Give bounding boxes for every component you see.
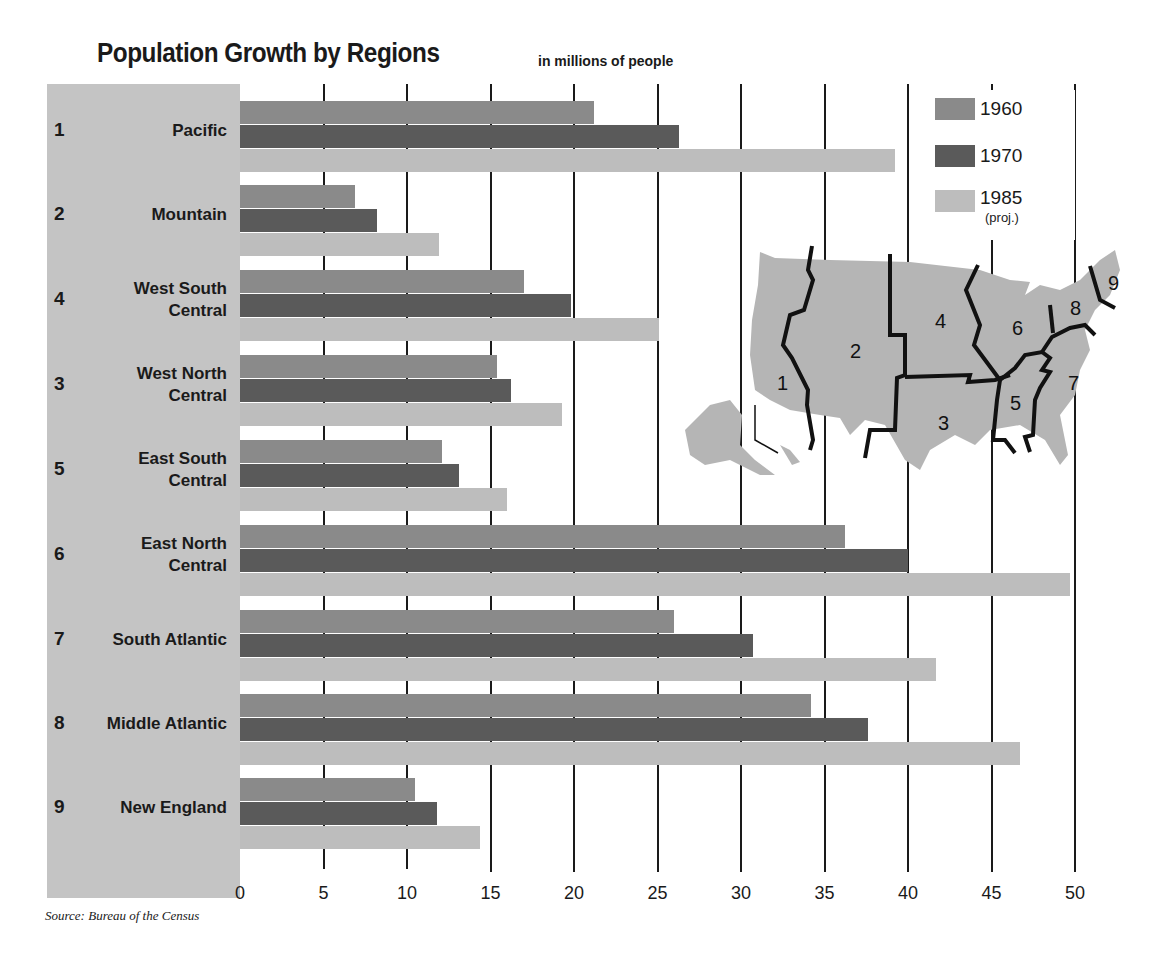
x-tick-label: 40 — [898, 883, 918, 904]
row-label: New England — [120, 797, 227, 819]
bar-1960 — [240, 778, 415, 801]
bar-1985 — [240, 233, 439, 256]
x-tick-label: 15 — [480, 883, 500, 904]
bar-1970 — [240, 294, 571, 317]
bar-1960 — [240, 440, 442, 463]
legend-note-proj: (proj.) — [985, 210, 1019, 225]
svg-text:2: 2 — [850, 340, 861, 362]
svg-text:5: 5 — [1010, 392, 1021, 414]
alaska-hawaii-divider — [755, 405, 778, 453]
chart-title: Population Growth by Regions — [97, 38, 439, 69]
x-tick-label: 0 — [235, 883, 245, 904]
row-number: 9 — [54, 796, 65, 818]
bar-1970 — [240, 549, 908, 572]
legend-swatch-1960 — [935, 98, 975, 120]
bar-1970 — [240, 718, 868, 741]
row-number: 7 — [54, 628, 65, 650]
legend-swatch-1970 — [935, 145, 975, 167]
legend-label-1960: 1960 — [980, 98, 1022, 120]
chart-subtitle: in millions of people — [538, 53, 673, 69]
svg-text:4: 4 — [935, 310, 946, 332]
x-tick-label: 25 — [647, 883, 667, 904]
row-label: West South Central — [134, 278, 227, 322]
x-tick-label: 10 — [397, 883, 417, 904]
row-label: Middle Atlantic — [107, 713, 227, 735]
bar-1960 — [240, 610, 674, 633]
legend-label-1985: 1985 — [980, 187, 1022, 209]
svg-text:8: 8 — [1070, 297, 1081, 319]
row-label: Mountain — [151, 204, 227, 226]
bar-1970 — [240, 379, 511, 402]
bar-1970 — [240, 209, 377, 232]
bar-1985 — [240, 742, 1020, 765]
us-map-shape — [685, 250, 1120, 475]
svg-text:1: 1 — [777, 372, 788, 394]
row-label: South Atlantic — [112, 629, 227, 651]
row-number: 5 — [54, 458, 65, 480]
bar-1970 — [240, 464, 459, 487]
legend: 1960 1970 1985 (proj.) — [915, 90, 1075, 240]
bar-1985 — [240, 826, 480, 849]
row-label: Pacific — [172, 120, 227, 142]
x-tick-label: 5 — [318, 883, 328, 904]
bar-1960 — [240, 525, 845, 548]
svg-text:6: 6 — [1012, 317, 1023, 339]
x-tick-label: 45 — [981, 883, 1001, 904]
bar-1985 — [240, 658, 936, 681]
svg-text:9: 9 — [1108, 272, 1119, 294]
row-label: West North Central — [137, 363, 227, 407]
bar-1985 — [240, 403, 562, 426]
bar-1970 — [240, 802, 437, 825]
x-tick-label: 35 — [814, 883, 834, 904]
bar-1960 — [240, 694, 811, 717]
svg-text:7: 7 — [1068, 372, 1079, 394]
bar-1960 — [240, 355, 497, 378]
bar-1960 — [240, 101, 594, 124]
bar-1985 — [240, 318, 659, 341]
row-number: 8 — [54, 712, 65, 734]
bar-1970 — [240, 125, 679, 148]
bar-1985 — [240, 149, 895, 172]
source-note: Source: Bureau of the Census — [45, 908, 199, 924]
legend-swatch-1985 — [935, 190, 975, 212]
bar-1985 — [240, 573, 1070, 596]
x-tick-label: 20 — [564, 883, 584, 904]
bar-1960 — [240, 270, 524, 293]
legend-label-1970: 1970 — [980, 145, 1022, 167]
row-number: 6 — [54, 543, 65, 565]
bar-1970 — [240, 634, 753, 657]
svg-text:3: 3 — [938, 412, 949, 434]
row-label: East South Central — [138, 448, 227, 492]
row-number: 4 — [54, 288, 65, 310]
bar-1985 — [240, 488, 507, 511]
row-label: East North Central — [141, 533, 227, 577]
row-number: 2 — [54, 203, 65, 225]
row-number: 3 — [54, 373, 65, 395]
x-tick-label: 30 — [731, 883, 751, 904]
bar-1960 — [240, 185, 355, 208]
row-number: 1 — [54, 119, 65, 141]
x-tick-label: 50 — [1065, 883, 1085, 904]
us-regions-map: 1 2 3 4 5 6 7 8 9 — [680, 240, 1120, 500]
